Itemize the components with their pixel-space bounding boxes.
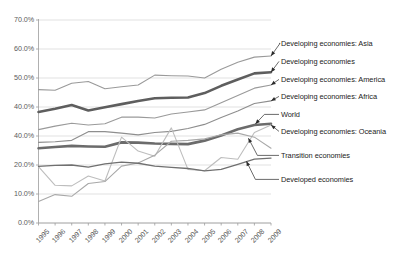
line-chart: 70.0%60.0%50.0%40.0%40.0%20.0%10.0%0.0% … bbox=[0, 0, 405, 266]
series-label-developing-economies-oceania: Developing economies: Oceania bbox=[281, 127, 386, 136]
callout-arrowhead bbox=[271, 51, 275, 56]
series-label-transition-economies: Transition economies bbox=[281, 151, 350, 160]
series-label-developing-economies-africa: Developing economies: Africa bbox=[281, 92, 377, 101]
y-axis-tick-label: 50.0% bbox=[0, 73, 34, 82]
y-axis-tick-label: 60.0% bbox=[0, 44, 34, 53]
y-axis-tick-label: 0.0% bbox=[0, 218, 34, 227]
series-line bbox=[39, 56, 272, 90]
series-label-developing-economies: Developing economies bbox=[281, 57, 355, 66]
y-axis-tick-label: 10.0% bbox=[0, 189, 34, 198]
series-label-developing-economies-america: Developing economies: America bbox=[281, 75, 385, 84]
series-line bbox=[39, 158, 272, 171]
callout-arrowhead bbox=[271, 67, 275, 72]
y-axis-tick-label: 70.0% bbox=[0, 15, 34, 24]
y-axis-tick-label: 40.0% bbox=[0, 131, 34, 140]
y-axis-tick-label: 20.0% bbox=[0, 160, 34, 169]
series-label-developing-economies-asia: Developing economies: Asia bbox=[281, 39, 373, 48]
callout-arrowhead bbox=[271, 97, 276, 101]
series-label-world: World bbox=[281, 110, 300, 119]
callout-arrowhead bbox=[271, 81, 276, 85]
y-axis-tick-label: 40.0% bbox=[0, 102, 34, 111]
series-label-developed-economies: Developed economies bbox=[281, 175, 353, 184]
